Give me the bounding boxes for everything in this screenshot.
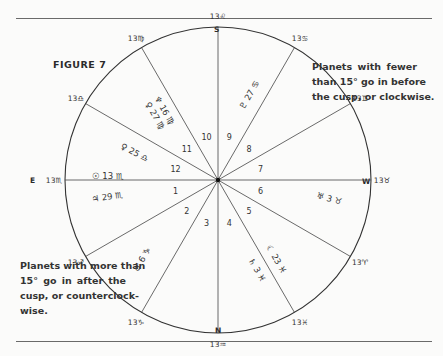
cusp-label: 13♉: [374, 176, 391, 185]
house-spoke: [218, 180, 295, 313]
house-number: 9: [227, 133, 232, 142]
cusp-label: 13♏: [46, 176, 63, 185]
house-number: 11: [182, 145, 192, 154]
cusp-label: 13♎: [68, 94, 85, 103]
house-number: 8: [247, 145, 252, 154]
center-dot: [216, 178, 220, 182]
planet-pluto: ♇ 27 ♋: [237, 79, 261, 111]
house-number: 4: [227, 219, 232, 228]
house-spoke: [142, 180, 219, 313]
planet-mercury: ♀ 25 ♎: [119, 141, 150, 164]
house-number: 2: [184, 207, 189, 216]
house-spoke: [218, 47, 295, 180]
cusp-label: 13♑: [128, 318, 145, 327]
house-number: 5: [247, 207, 252, 216]
planet-uranus: ♅ 3 ♉: [315, 190, 343, 206]
planet-jupiter: ♃ 29 ♏: [91, 190, 124, 204]
cusp-label: 13♐: [68, 258, 85, 267]
planet-moon: ☾ 23 ♓: [264, 243, 288, 275]
planet-sun: ☉ 13 ♏: [92, 171, 124, 181]
cusp-label: 13♈: [352, 258, 369, 267]
house-number: 10: [202, 133, 212, 142]
cusp-label: 13♋: [292, 34, 308, 43]
horoscope-wheel: 13♏13♐13♑13♒13♓13♈13♉13♊13♋13♌13♍13♎ 123…: [0, 0, 443, 356]
cusp-label: 13♓: [292, 318, 308, 327]
cusp-label: 13♒: [210, 340, 227, 349]
house-spoke: [218, 180, 351, 257]
house-spoke: [218, 104, 351, 181]
house-number: 7: [258, 165, 263, 174]
house-number: 1: [173, 187, 178, 196]
cusp-label: 13♌: [210, 12, 226, 21]
house-number: 6: [258, 187, 263, 196]
house-number: 12: [170, 165, 180, 174]
planet-mars: ♂ 6 ♑: [131, 245, 153, 273]
house-number: 3: [204, 219, 209, 228]
cusp-label: 13♊: [352, 94, 369, 103]
cusp-label: 13♍: [128, 34, 145, 43]
